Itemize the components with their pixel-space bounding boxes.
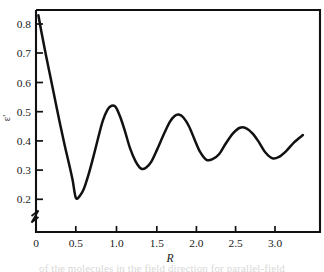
x-tick-label-0.5: 0.5 — [69, 237, 84, 249]
y-tick-label-0.3: 0.3 — [17, 164, 32, 176]
y-tick-label-0.5: 0.5 — [17, 106, 32, 118]
y-tick-label-0.2: 0.2 — [17, 193, 32, 205]
y-axis-title: ε' — [1, 115, 12, 121]
x-tick-labels: 0 0.5 1.0 1.5 2.0 2.5 3.0 — [33, 237, 282, 249]
plot-svg: 0.8 0.7 0.6 0.5 0.4 0.3 0.2 0 0.5 1.0 1.… — [0, 0, 324, 272]
data-curve-epsilon — [38, 15, 302, 199]
x-tick-label-3.0: 3.0 — [268, 237, 283, 249]
x-tick-label-1.5: 1.5 — [150, 237, 165, 249]
y-axis-break-icon — [32, 211, 39, 223]
y-tick-label-0.7: 0.7 — [17, 47, 32, 59]
y-tick-labels: 0.8 0.7 0.6 0.5 0.4 0.3 0.2 — [17, 18, 32, 205]
x-tick-label-2.5: 2.5 — [228, 237, 243, 249]
caption-fragment: of the molecules in the field direction … — [0, 264, 324, 272]
y-tick-label-0.4: 0.4 — [17, 135, 32, 147]
screenshot-root: 0.8 0.7 0.6 0.5 0.4 0.3 0.2 0 0.5 1.0 1.… — [0, 0, 324, 272]
x-tick-label-1.0: 1.0 — [109, 237, 124, 249]
x-tick-label-0: 0 — [33, 237, 39, 249]
y-tick-label-0.8: 0.8 — [17, 18, 32, 30]
plot-figure: 0.8 0.7 0.6 0.5 0.4 0.3 0.2 0 0.5 1.0 1.… — [0, 0, 324, 272]
x-tick-label-2.0: 2.0 — [189, 237, 204, 249]
y-tick-label-0.6: 0.6 — [17, 77, 32, 89]
